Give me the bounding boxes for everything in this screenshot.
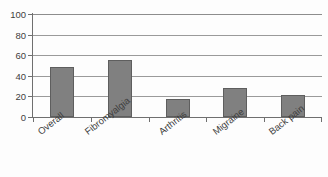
y-tick-label-20: 20 <box>1 92 26 102</box>
y-tick-60 <box>28 55 32 56</box>
y-tick-40 <box>28 76 32 77</box>
bar-overall[interactable] <box>50 67 74 118</box>
x-axis-category-labels: Overall Fibromyalgia Arthritis Migraine … <box>0 117 328 177</box>
y-tick-label-60: 60 <box>1 51 26 61</box>
y-tick-100 <box>28 14 32 15</box>
y-tick-label-40: 40 <box>1 72 26 82</box>
y-tick-label-100: 100 <box>1 10 26 20</box>
y-tick-20 <box>28 96 32 97</box>
bar-chart-figure: 100 80 60 40 20 0 Overall Fibromyalgia A… <box>0 0 328 177</box>
y-tick-80 <box>28 35 32 36</box>
bars-layer <box>33 14 322 117</box>
y-tick-label-80: 80 <box>1 31 26 41</box>
